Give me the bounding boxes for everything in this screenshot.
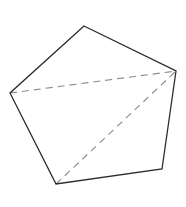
pentagon-figure [0, 0, 186, 207]
diagram-canvas [0, 0, 186, 207]
diagonal-line-2 [56, 71, 176, 184]
dashed-diagonals [10, 71, 176, 184]
diagonal-line-1 [10, 71, 176, 93]
pentagon-outline [10, 26, 176, 184]
